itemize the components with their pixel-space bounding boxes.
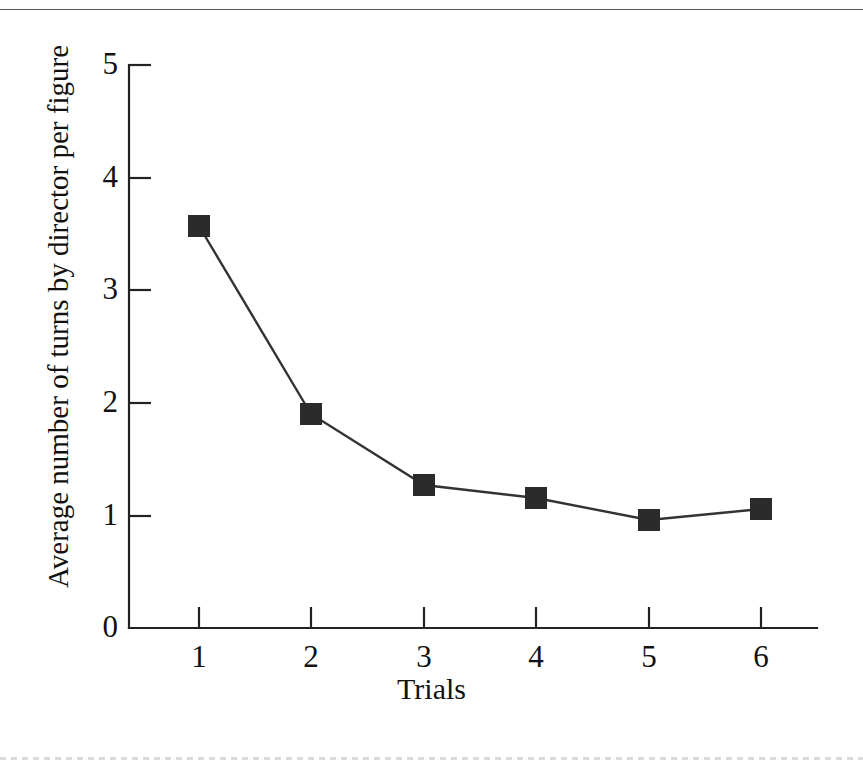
x-axis-title: Trials xyxy=(0,672,863,706)
y-tick-label-0: 0 xyxy=(78,611,118,642)
data-point-marker xyxy=(188,215,210,237)
x-tick-label-6: 6 xyxy=(741,641,781,672)
x-tick-label-3: 3 xyxy=(404,641,444,672)
y-tick-label-3: 3 xyxy=(78,273,118,304)
y-tick-label-2: 2 xyxy=(78,386,118,417)
y-tick-label-1: 1 xyxy=(78,499,118,530)
x-tick-label-1: 1 xyxy=(179,641,219,672)
figure-container: 5 4 3 2 1 0 1 2 3 4 5 6 Trials Average n… xyxy=(0,0,863,761)
y-tick-marks xyxy=(129,65,151,516)
data-point-marker xyxy=(525,487,547,509)
y-tick-label-4: 4 xyxy=(78,161,118,192)
data-point-marker xyxy=(638,509,660,531)
x-tick-marks xyxy=(199,607,761,628)
data-line-series-1 xyxy=(199,226,761,520)
data-point-marker xyxy=(750,498,772,520)
data-markers xyxy=(188,215,772,531)
y-axis-title: Average number of turns by director per … xyxy=(42,27,75,607)
x-tick-label-4: 4 xyxy=(516,641,556,672)
data-point-marker xyxy=(413,474,435,496)
y-tick-label-5: 5 xyxy=(78,48,118,79)
page-bottom-text-sliver xyxy=(0,757,863,760)
x-tick-label-5: 5 xyxy=(629,641,669,672)
x-tick-label-2: 2 xyxy=(291,641,331,672)
data-point-marker xyxy=(300,403,322,425)
y-axis-title-container: Average number of turns by director per … xyxy=(28,0,76,660)
